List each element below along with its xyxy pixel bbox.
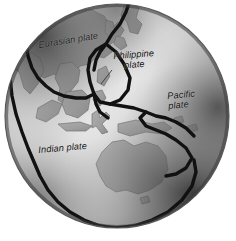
label-pacific-plate: Pacific plate [167, 90, 196, 112]
tectonic-plates-figure: Eurasian plate Philippine plate Pacific … [0, 0, 236, 241]
globe-illustration [0, 0, 236, 241]
label-philippine-plate: Philippine plate [113, 49, 155, 72]
